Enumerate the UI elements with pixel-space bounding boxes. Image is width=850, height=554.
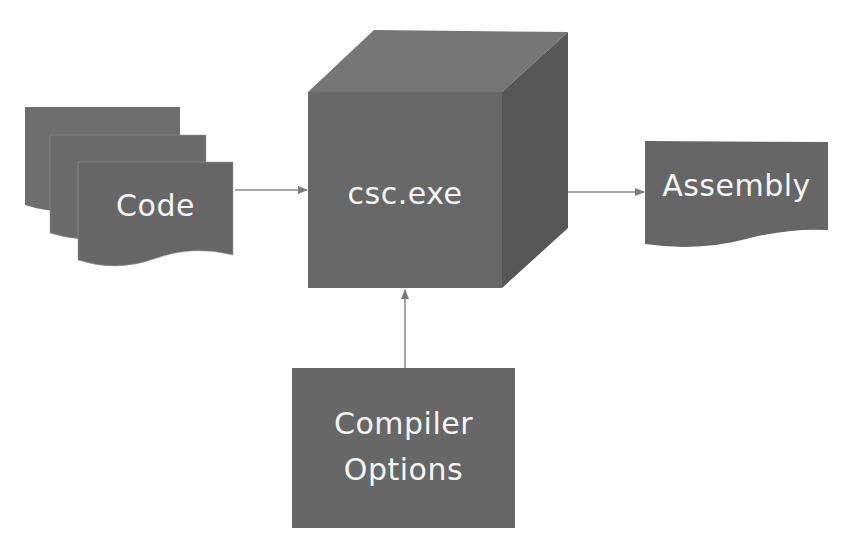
- compiler-label: csc.exe: [308, 176, 502, 211]
- compiler-cube: [308, 30, 568, 288]
- compiler-options-box: [292, 368, 515, 528]
- options-label-line2: Options: [292, 452, 515, 487]
- code-document-stack: [25, 107, 233, 266]
- assembly-label: Assembly: [645, 168, 828, 203]
- code-label: Code: [78, 188, 233, 223]
- options-label-line1: Compiler: [292, 406, 515, 441]
